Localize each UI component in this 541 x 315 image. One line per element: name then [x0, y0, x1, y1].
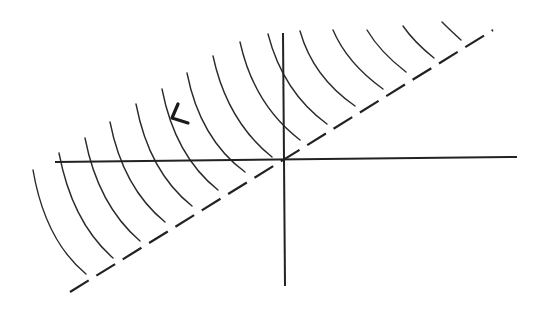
wavefront-arc — [268, 34, 327, 124]
wavefront-arc — [110, 122, 165, 222]
wavefront-arc — [187, 73, 245, 172]
wavefront-arcs — [33, 22, 461, 274]
wavefront-arc — [333, 30, 383, 89]
wavefront-arc — [33, 170, 86, 274]
wavefront-arc — [367, 30, 406, 72]
wavefront-arc — [59, 153, 113, 258]
wavefront-arc — [403, 26, 434, 58]
wavefront-arc — [162, 89, 218, 190]
wavefront-arc — [240, 42, 300, 140]
diagram-canvas — [0, 0, 541, 315]
wavefront-arc — [300, 31, 355, 106]
wavefront-arc — [213, 56, 272, 157]
direction-arrow-icon — [172, 104, 188, 123]
wavefront-arc — [442, 22, 461, 40]
wavefront-arc — [85, 138, 140, 241]
wavefront-arc — [136, 104, 192, 206]
wavefront-diagram — [0, 0, 541, 315]
